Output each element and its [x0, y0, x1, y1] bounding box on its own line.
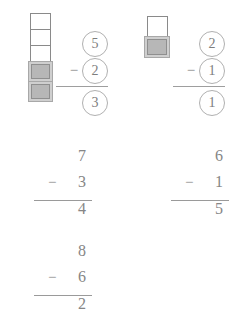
written-problem-bottom-left: − 8 − 6 − 2	[30, 243, 92, 318]
written-problem-middle-right: − 6 − 1 − 5	[167, 148, 229, 227]
minus-sign-icon: −	[48, 270, 72, 285]
subtrahend-row: − 2	[56, 57, 108, 84]
worksheet-page: − 5 − 2 − 3 − 2 − 1 − 1	[0, 0, 242, 318]
cube-tower-left	[29, 14, 53, 102]
minuend-circle: 5	[82, 31, 108, 57]
minuend-row: − 6	[167, 148, 229, 174]
written-problem-middle-left: − 7 − 3 − 4	[30, 148, 92, 227]
minus-sign-icon: −	[66, 63, 82, 78]
filled-cube	[144, 36, 170, 58]
subtrahend: 3	[72, 174, 92, 190]
difference-row: − 2	[30, 296, 92, 318]
minuend-row: − 2	[173, 30, 225, 57]
difference-row: − 1	[173, 89, 225, 116]
filled-cube	[28, 61, 53, 82]
open-cube	[147, 16, 168, 37]
subtrahend-circle: 2	[82, 58, 108, 84]
circled-problem-left: − 5 − 2 − 3	[56, 30, 108, 116]
minuend: 6	[209, 148, 229, 164]
circled-problem-right: − 2 − 1 − 1	[173, 30, 225, 116]
difference: 5	[209, 201, 229, 217]
answer-rule	[173, 86, 225, 87]
subtrahend: 1	[209, 174, 229, 190]
answer-rule	[56, 86, 108, 87]
subtrahend-row: − 1	[167, 174, 229, 200]
minus-sign-icon: −	[48, 175, 72, 190]
cube-tower-right	[146, 16, 170, 58]
minus-sign-icon: −	[185, 175, 209, 190]
subtrahend-row: − 6	[30, 269, 92, 295]
subtrahend: 6	[72, 269, 92, 285]
minuend-row: − 5	[56, 30, 108, 57]
open-cube	[30, 13, 51, 30]
difference-circle: 1	[199, 90, 225, 116]
subtrahend-row: − 3	[30, 174, 92, 200]
subtrahend-row: − 1	[173, 57, 225, 84]
subtrahend-circle: 1	[199, 58, 225, 84]
filled-cube	[28, 81, 53, 102]
minuend: 7	[72, 148, 92, 164]
difference-row: − 3	[56, 89, 108, 116]
minuend-row: − 7	[30, 148, 92, 174]
difference-row: − 5	[167, 201, 229, 227]
minus-sign-icon: −	[183, 63, 199, 78]
open-cube	[30, 45, 51, 62]
difference: 2	[72, 296, 92, 312]
difference: 4	[72, 201, 92, 217]
difference-row: − 4	[30, 201, 92, 227]
minuend-circle: 2	[199, 31, 225, 57]
open-cube	[30, 29, 51, 46]
difference-circle: 3	[82, 90, 108, 116]
minuend-row: − 8	[30, 243, 92, 269]
minuend: 8	[72, 243, 92, 259]
